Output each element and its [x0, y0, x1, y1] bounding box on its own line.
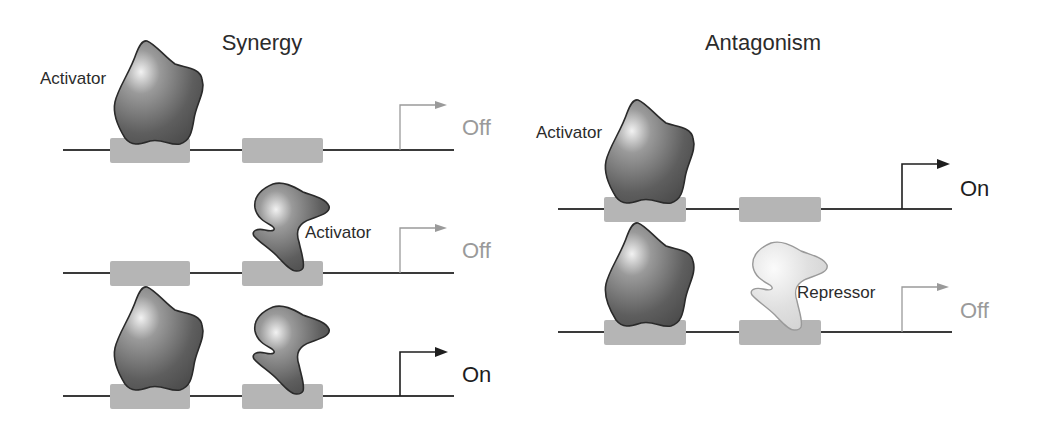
activator-protein [253, 306, 329, 394]
binding-site-2 [242, 261, 323, 286]
synergy-row-1: Activator Off [40, 41, 492, 163]
transcription-state: Off [462, 115, 492, 140]
binding-site-2 [739, 197, 821, 222]
transcription-state: Off [462, 238, 492, 263]
arrowhead-icon [435, 101, 447, 109]
activator-label: Activator [305, 223, 371, 242]
activator-protein [114, 287, 203, 390]
binding-site-2 [739, 320, 821, 345]
synergy-title: Synergy [222, 30, 303, 55]
promoter-arrow-icon [400, 228, 436, 273]
activator-protein [114, 41, 203, 144]
binding-site-2 [242, 384, 323, 409]
synergy-panel: Synergy Activator Off Activator Off [40, 30, 492, 409]
arrowhead-icon [435, 347, 448, 357]
activator-protein [605, 100, 694, 203]
activator-protein [605, 223, 694, 326]
arrowhead-icon [937, 159, 950, 169]
transcription-state: On [462, 362, 491, 387]
synergy-row-3: On [63, 287, 491, 409]
repressor-label: Repressor [797, 283, 876, 302]
promoter-arrow-icon [902, 287, 938, 332]
transcription-state: On [960, 176, 989, 201]
arrowhead-icon [435, 224, 447, 232]
binding-site-2 [242, 138, 323, 163]
promoter-arrow-icon [902, 164, 938, 209]
activator-label: Activator [40, 69, 106, 88]
binding-site-1 [110, 261, 190, 286]
regulation-diagram: Synergy Activator Off Activator Off [0, 0, 1037, 425]
promoter-arrow-icon [400, 105, 436, 150]
antagonism-row-2: Repressor Off [558, 223, 990, 345]
antagonism-panel: Antagonism Activator On Repressor Off [536, 30, 990, 345]
arrowhead-icon [937, 283, 949, 291]
activator-label: Activator [536, 123, 602, 142]
promoter-arrow-icon [400, 352, 436, 396]
antagonism-row-1: Activator On [536, 100, 989, 222]
synergy-row-2: Activator Off [63, 183, 492, 286]
transcription-state: Off [960, 298, 990, 323]
antagonism-title: Antagonism [705, 30, 821, 55]
